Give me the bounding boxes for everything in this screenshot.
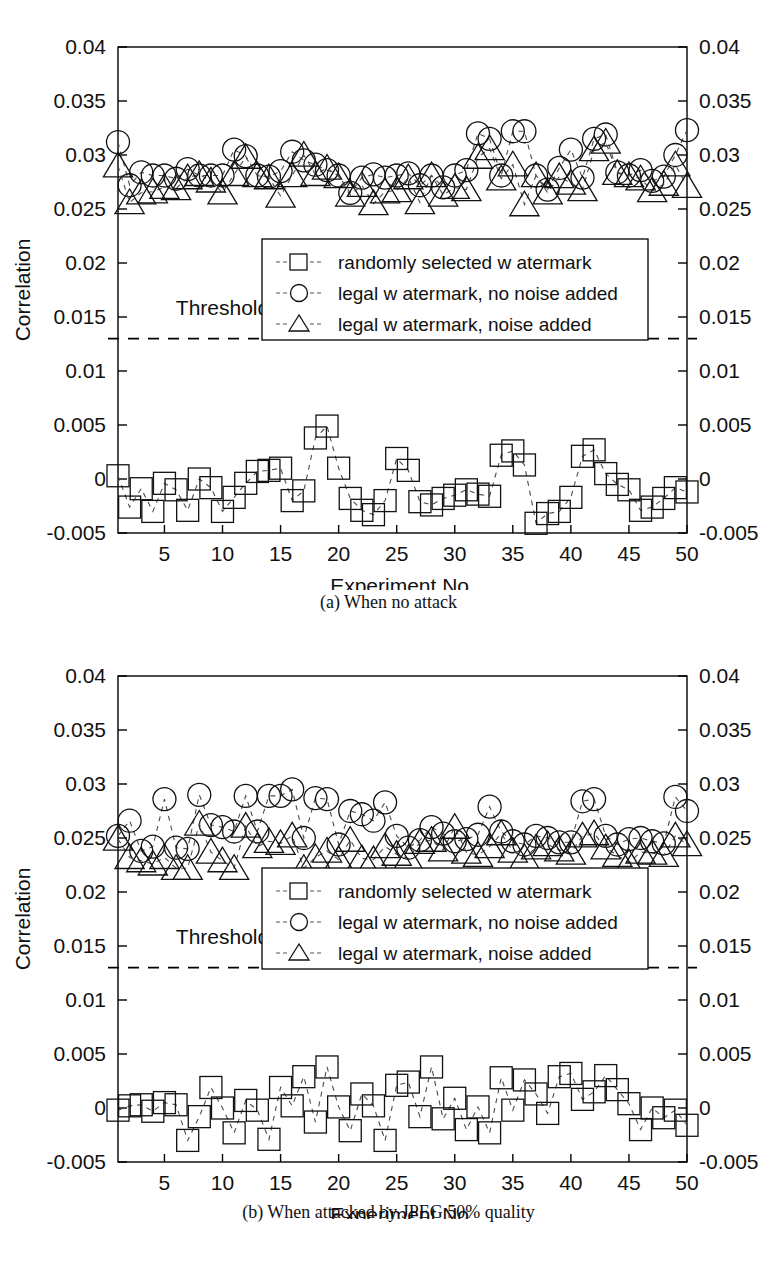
y-tick-label-right: -0.005: [699, 521, 759, 544]
caption-panel-a: (a) When no attack: [0, 592, 777, 613]
x-tick-label: 5: [159, 1171, 171, 1194]
x-tick-label: 15: [269, 542, 292, 565]
x-tick-label: 20: [327, 542, 350, 565]
y-tick-label-right: 0.015: [699, 305, 752, 328]
x-tick-label: 25: [385, 542, 408, 565]
legend: randomly selected w atermarklegal w ater…: [262, 239, 648, 340]
marker-square: [177, 499, 199, 521]
x-tick-label: 35: [501, 542, 524, 565]
legend-entry-label: legal w atermark, noise added: [338, 943, 591, 964]
marker-circle: [188, 783, 211, 806]
marker-square: [200, 1076, 222, 1098]
y-tick-label-right: 0.035: [699, 89, 752, 112]
x-tick-label: 25: [385, 1171, 408, 1194]
marker-circle: [571, 166, 594, 189]
y-tick-label-left: 0.015: [53, 305, 106, 328]
y-tick-label-left: -0.005: [46, 521, 106, 544]
legend-entry-label: legal w atermark, no noise added: [338, 283, 618, 304]
y-tick-label-right: 0.015: [699, 934, 752, 957]
legend-entry-label: legal w atermark, no noise added: [338, 912, 618, 933]
x-tick-label: 40: [559, 542, 582, 565]
legend-entry-label: legal w atermark, noise added: [338, 314, 591, 335]
y-tick-label-left: 0.02: [65, 251, 106, 274]
marker-circle: [374, 791, 397, 814]
y-tick-label-left: 0: [94, 467, 106, 490]
x-tick-label: 50: [675, 1171, 698, 1194]
y-tick-label-right: 0.04: [699, 664, 740, 687]
y-tick-label-left: 0.03: [65, 772, 106, 795]
marker-circle: [559, 138, 582, 161]
y-tick-label-left: 0.005: [53, 413, 106, 436]
marker-square: [455, 1119, 477, 1141]
y-axis-label: Correlation: [11, 239, 34, 342]
series-triangle: [103, 129, 701, 216]
x-tick-label: 30: [443, 542, 466, 565]
series-square: [107, 1056, 698, 1151]
marker-triangle: [208, 847, 237, 872]
y-tick-label-left: 0.03: [65, 143, 106, 166]
x-tick-label: 45: [617, 1171, 640, 1194]
y-tick-label-left: 0.025: [53, 826, 106, 849]
x-axis-label: Experiment No.: [330, 574, 475, 590]
threshold-label: Threshold: [176, 296, 269, 319]
figure-panel-a: 5101520253035404550-0.005-0.005000.0050.…: [0, 0, 777, 640]
y-tick-label-left: 0.04: [65, 35, 106, 58]
x-tick-label: 10: [211, 1171, 234, 1194]
y-tick-label-right: 0.02: [699, 251, 740, 274]
y-tick-label-left: 0.035: [53, 718, 106, 741]
marker-square: [293, 1066, 315, 1088]
marker-square: [432, 1108, 454, 1130]
series-circle: [107, 119, 699, 205]
y-tick-label-left: -0.005: [46, 1150, 106, 1173]
marker-square: [479, 1122, 501, 1144]
marker-circle: [664, 785, 687, 808]
y-tick-label-left: 0.04: [65, 664, 106, 687]
y-tick-label-right: 0: [699, 1096, 711, 1119]
marker-triangle: [336, 181, 365, 206]
series-square: [107, 415, 698, 534]
y-tick-label-right: 0.035: [699, 718, 752, 741]
x-tick-label: 20: [327, 1171, 350, 1194]
legend-entry-label: randomly selected w atermark: [338, 252, 592, 273]
marker-square: [490, 1067, 512, 1089]
series-connector: [118, 1067, 687, 1140]
y-tick-label-left: 0.01: [65, 359, 106, 382]
y-tick-label-right: 0.03: [699, 772, 740, 795]
y-tick-label-left: 0.035: [53, 89, 106, 112]
figure-panel-b: 5101520253035404550-0.005-0.005000.0050.…: [0, 629, 777, 1269]
y-tick-label-right: 0: [699, 467, 711, 490]
x-tick-label: 10: [211, 542, 234, 565]
y-tick-label-right: 0.005: [699, 413, 752, 436]
chart-a: 5101520253035404550-0.005-0.005000.0050.…: [0, 0, 777, 590]
y-tick-label-left: 0.01: [65, 988, 106, 1011]
y-tick-label-right: 0.005: [699, 1042, 752, 1065]
x-tick-label: 5: [159, 542, 171, 565]
marker-square: [339, 1120, 361, 1142]
y-tick-label-right: 0.03: [699, 143, 740, 166]
caption-panel-b: (b) When attacked by JPEG 50% quality: [0, 1202, 777, 1223]
y-tick-label-right: -0.005: [699, 1150, 759, 1173]
marker-square: [188, 1106, 210, 1128]
x-tick-label: 45: [617, 542, 640, 565]
y-tick-label-right: 0.02: [699, 880, 740, 903]
legend: randomly selected w atermarklegal w ater…: [262, 868, 648, 969]
marker-square: [223, 1122, 245, 1144]
y-tick-label-left: 0.02: [65, 880, 106, 903]
x-tick-label: 40: [559, 1171, 582, 1194]
y-tick-label-right: 0.01: [699, 988, 740, 1011]
x-tick-label: 35: [501, 1171, 524, 1194]
x-tick-label: 15: [269, 1171, 292, 1194]
y-tick-label-left: 0.015: [53, 934, 106, 957]
y-tick-label-right: 0.025: [699, 197, 752, 220]
y-tick-label-right: 0.01: [699, 359, 740, 382]
y-tick-label-right: 0.025: [699, 826, 752, 849]
marker-square: [421, 1056, 443, 1078]
y-tick-label-right: 0.04: [699, 35, 740, 58]
legend-entry-label: randomly selected w atermark: [338, 881, 592, 902]
x-tick-label: 30: [443, 1171, 466, 1194]
y-axis-label: Correlation: [11, 868, 34, 971]
chart-b: 5101520253035404550-0.005-0.005000.0050.…: [0, 629, 777, 1219]
x-tick-label: 50: [675, 542, 698, 565]
y-tick-label-left: 0.005: [53, 1042, 106, 1065]
marker-circle: [118, 809, 141, 832]
